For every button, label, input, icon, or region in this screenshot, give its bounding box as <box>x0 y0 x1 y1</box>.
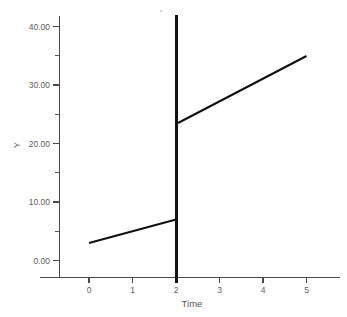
x-tick-label-0: 0 <box>87 285 92 295</box>
image-speck <box>160 10 162 12</box>
series-line-post-intervention <box>178 56 307 123</box>
x-tick-label-2: 2 <box>174 285 179 295</box>
series-group <box>89 56 307 243</box>
chart-container: 40.00 30.00 20.00 10.00 0.00 0 1 2 3 4 5… <box>0 0 347 317</box>
y-tick-marks <box>53 27 59 261</box>
x-tick-labels: 0 1 2 3 4 5 <box>87 285 310 295</box>
x-tick-label-5: 5 <box>304 285 309 295</box>
interrupted-time-series-chart: 40.00 30.00 20.00 10.00 0.00 0 1 2 3 4 5… <box>0 0 347 317</box>
y-tick-label-30: 30.00 <box>29 80 51 90</box>
x-axis-title: Time <box>182 298 203 309</box>
y-tick-labels: 40.00 30.00 20.00 10.00 0.00 <box>29 22 51 266</box>
series-line-pre-intervention <box>89 220 176 244</box>
y-axis-title: Y <box>11 141 22 148</box>
axes-group <box>40 16 340 278</box>
y-tick-label-0: 0.00 <box>33 256 50 266</box>
y-tick-label-10: 10.00 <box>29 197 51 207</box>
x-tick-marks <box>89 278 307 283</box>
y-tick-label-40: 40.00 <box>29 22 51 32</box>
y-tick-label-20: 20.00 <box>29 139 51 149</box>
x-tick-label-1: 1 <box>130 285 135 295</box>
x-tick-label-4: 4 <box>261 285 266 295</box>
x-tick-label-3: 3 <box>217 285 222 295</box>
